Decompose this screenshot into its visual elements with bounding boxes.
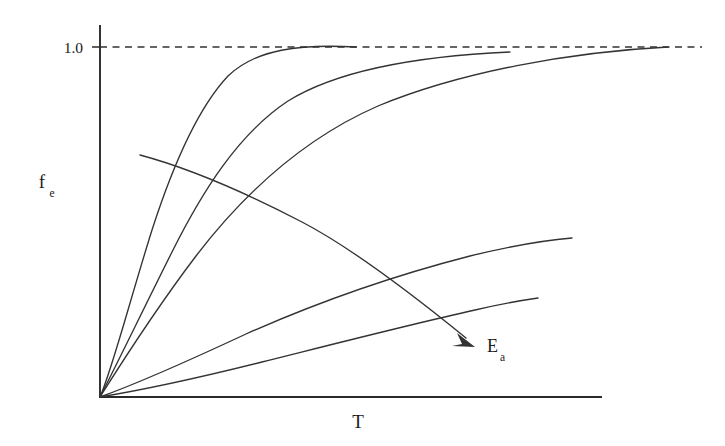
y-tick-label-1.0: 1.0 [64, 39, 84, 56]
fraction-evaporated-vs-temperature-chart: 1.0 f e T E a [0, 0, 725, 446]
activation-energy-label-base: E [487, 336, 498, 356]
x-axis-label: T [352, 411, 364, 432]
activation-energy-label-subscript: a [500, 351, 505, 363]
y-axis-label-subscript: e [49, 187, 54, 199]
y-axis-label-base: f [39, 171, 46, 192]
